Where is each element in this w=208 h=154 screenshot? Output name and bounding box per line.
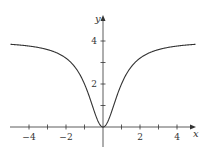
x-tick-label-neg2: −2 xyxy=(59,132,72,142)
y-tick-label-2: 2 xyxy=(91,79,97,89)
x-tick-label-2: 2 xyxy=(137,132,143,142)
x-tick-label-4: 4 xyxy=(174,132,180,142)
y-axis-arrow-icon xyxy=(101,15,106,21)
x-axis-label: x xyxy=(193,128,199,139)
y-axis-label: y xyxy=(94,13,101,24)
y-tick-label-4: 4 xyxy=(91,36,97,46)
x-tick-label-neg4: −4 xyxy=(22,132,36,142)
function-plot: −4 −2 2 4 2 4 x y xyxy=(0,0,208,154)
